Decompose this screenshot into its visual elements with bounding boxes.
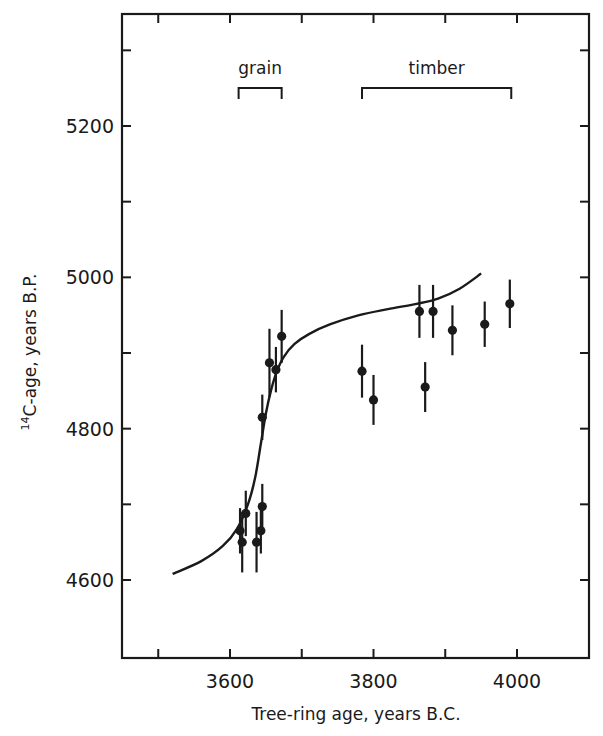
bracket-grain <box>239 88 282 99</box>
data-points <box>235 280 514 573</box>
point-marker <box>357 367 366 376</box>
point-marker <box>256 526 265 535</box>
svg-text:14C-age, years B.P.: 14C-age, years B.P. <box>19 274 40 431</box>
annotation-brackets: graintimber <box>238 58 511 99</box>
y-axis-title-text: C-age, years B.P. <box>20 274 40 417</box>
y-axis-title: 14C-age, years B.P. <box>19 274 40 431</box>
fitted-curve <box>173 274 482 574</box>
y-tick-label: 4800 <box>66 418 114 440</box>
y-tick-label: 4600 <box>66 569 114 591</box>
point-marker <box>265 358 274 367</box>
plot-border <box>122 14 589 658</box>
y-tick-label: 5200 <box>66 115 114 137</box>
point-marker <box>241 509 250 518</box>
point-marker <box>369 395 378 404</box>
point-marker <box>428 307 437 316</box>
point-marker <box>480 320 489 329</box>
timber-point <box>421 362 430 412</box>
point-marker <box>258 413 267 422</box>
timber-point <box>428 285 437 338</box>
point-marker <box>415 307 424 316</box>
y-tick-label: 5000 <box>66 266 114 288</box>
grain-point <box>258 395 267 440</box>
grain-point <box>258 484 267 529</box>
axis-ticks <box>122 14 589 658</box>
point-marker <box>271 365 280 374</box>
timber-point <box>448 305 457 355</box>
point-marker <box>421 382 430 391</box>
point-marker <box>277 332 286 341</box>
point-marker <box>258 502 267 511</box>
y-axis-title-superscript: 14 <box>19 416 32 430</box>
point-marker <box>448 326 457 335</box>
plot-frame <box>122 14 589 658</box>
label-timber: timber <box>409 58 465 78</box>
chart: 3600380040004600480050005200 graintimber… <box>0 0 603 736</box>
timber-point <box>415 285 424 338</box>
x-tick-label: 4000 <box>493 670 541 692</box>
timber-point <box>357 345 366 398</box>
timber-point <box>505 280 514 328</box>
point-marker <box>505 299 514 308</box>
timber-point <box>480 302 489 347</box>
fit-line <box>173 274 482 574</box>
point-marker <box>238 538 247 547</box>
tick-labels: 3600380040004600480050005200 <box>66 115 542 692</box>
bracket-timber <box>362 88 511 99</box>
x-tick-label: 3800 <box>349 670 397 692</box>
x-tick-label: 3600 <box>206 670 254 692</box>
label-grain: grain <box>238 58 282 78</box>
x-axis-title: Tree-ring age, years B.C. <box>250 704 460 724</box>
timber-point <box>369 375 378 425</box>
